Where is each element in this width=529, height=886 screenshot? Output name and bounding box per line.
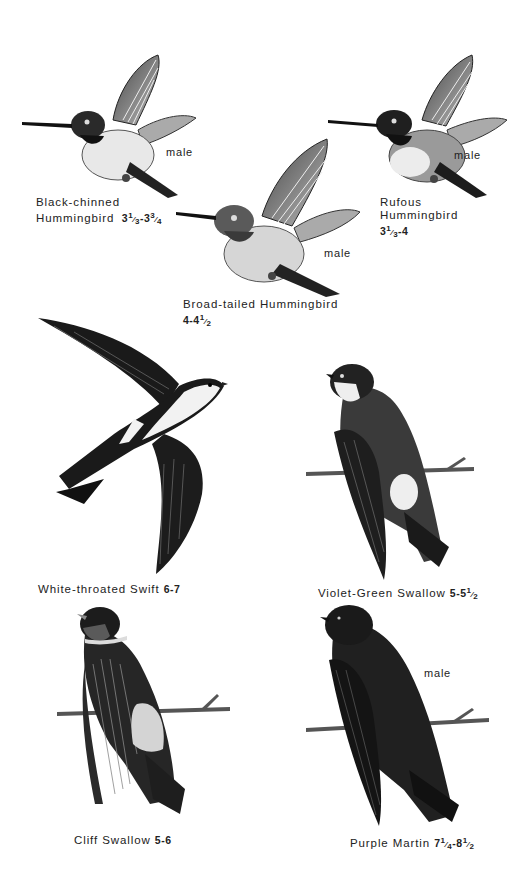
caption-purple-martin: Purple Martin 71⁄4-81⁄2 [350,834,474,853]
size-range: 31⁄3-33⁄4 [118,212,162,224]
caption-black-chinned-hummingbird: Black-chinned Hummingbird 31⁄3-33⁄4 [36,196,162,228]
species-name: Purple Martin [350,837,430,849]
species-name-line2: Hummingbird [380,209,458,221]
caption-cliff-swallow: Cliff Swallow 5-6 [74,834,171,847]
violet-green-swallow-illustration [304,362,484,582]
species-name-line1: Broad-tailed Hummingbird [183,298,338,310]
broad-tailed-hummingbird-illustration [172,136,362,298]
sex-label-rufous: male [454,149,481,161]
size-range: 5-6 [155,834,172,846]
species-name: Cliff Swallow [74,834,151,846]
white-throated-swift-illustration [34,314,234,576]
species-name: Violet-Green Swallow [318,587,446,599]
sex-label-purple-martin: male [424,667,451,679]
caption-rufous-hummingbird: Rufous Hummingbird 31⁄3-4 [380,196,458,241]
size-range: 31⁄3-4 [380,225,408,237]
caption-white-throated-swift: White-throated Swift 6-7 [38,583,180,596]
species-name-line1: Black-chinned [36,196,120,208]
black-chinned-hummingbird-illustration [18,50,198,205]
cliff-swallow-illustration [55,604,235,822]
purple-martin-illustration [304,600,494,828]
species-name-line2: Hummingbird [36,212,114,224]
size-range: 5-51⁄2 [450,587,478,599]
sex-label-broad-tailed: male [324,247,351,259]
species-name: White-throated Swift [38,583,160,595]
size-range: 6-7 [164,583,181,595]
species-name-line1: Rufous [380,196,422,208]
size-range: 71⁄4-81⁄2 [434,837,474,849]
